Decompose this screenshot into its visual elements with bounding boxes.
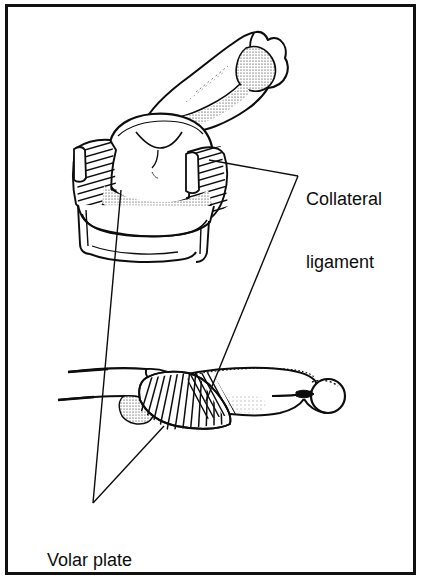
label-collateral-ligament-line1: Collateral [306,189,382,210]
lower-lateral-view [58,366,345,436]
figure-root: Collateral ligament Volar plate [0,0,424,585]
label-volar-plate-line1: Volar plate [47,550,132,571]
label-volar-plate: Volar plate [47,508,132,585]
upper-oblique-view [60,32,288,262]
label-collateral-ligament-line2: ligament [306,252,382,273]
label-collateral-ligament: Collateral ligament [306,147,382,315]
upper-middle-phalanx-base [78,205,214,262]
